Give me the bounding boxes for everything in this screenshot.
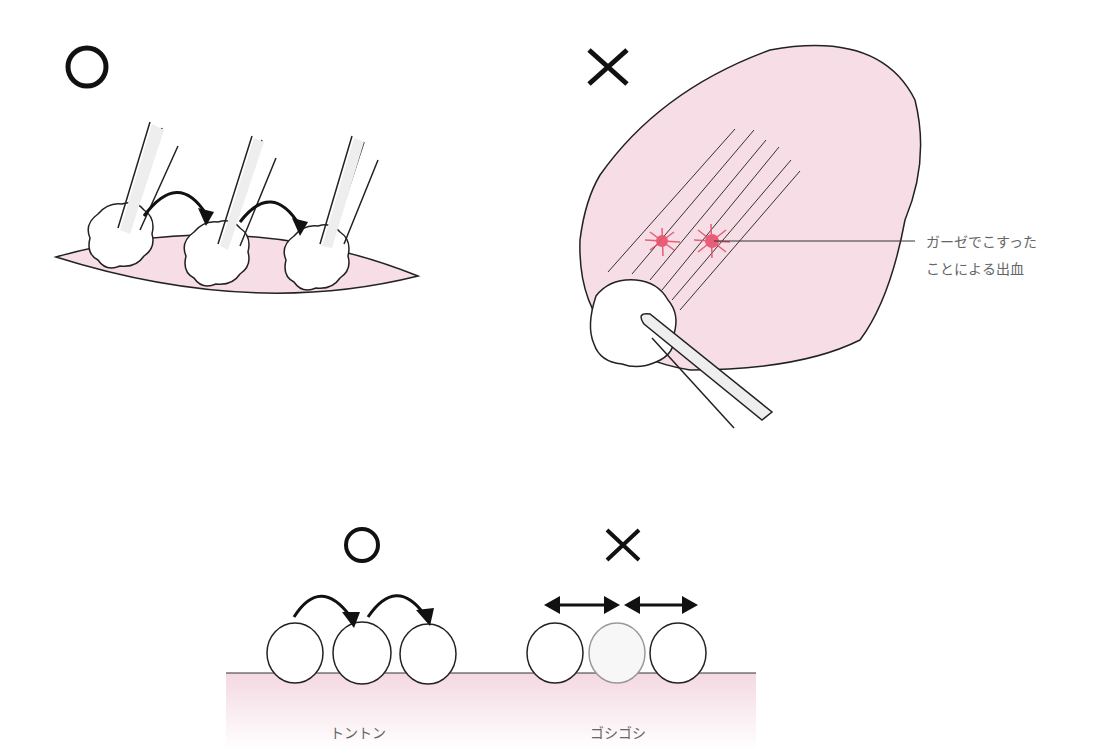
gauze-dab-2	[333, 622, 391, 684]
forceps-3	[320, 136, 378, 248]
gauze-ball-2	[184, 221, 249, 286]
label-rub: ゴシゴシ	[590, 723, 646, 743]
gauze-rub-1	[527, 623, 583, 683]
gauze-ball-1	[88, 203, 153, 268]
gauze-rub-ghost	[589, 623, 645, 683]
callout-text-line2: ことによる出血	[926, 259, 1024, 279]
callout-text-line1: ガーゼでこすった	[926, 232, 1037, 252]
gauze-dab-3	[400, 624, 456, 684]
illustration	[0, 0, 1118, 749]
cross-mark-icon	[589, 50, 627, 84]
circle-mark-icon	[346, 529, 378, 561]
double-arrow-icon	[544, 596, 698, 614]
gauze-rub-3	[650, 623, 706, 683]
gauze-ball-rubbing	[590, 280, 676, 367]
cross-mark-icon	[607, 530, 639, 560]
tissue-side-view	[226, 673, 756, 749]
gauze-ball-3	[284, 225, 349, 290]
label-dab: トントン	[330, 723, 386, 743]
circle-mark-icon	[68, 48, 106, 86]
forceps-2	[218, 136, 276, 250]
gauze-dab-1	[267, 623, 323, 683]
